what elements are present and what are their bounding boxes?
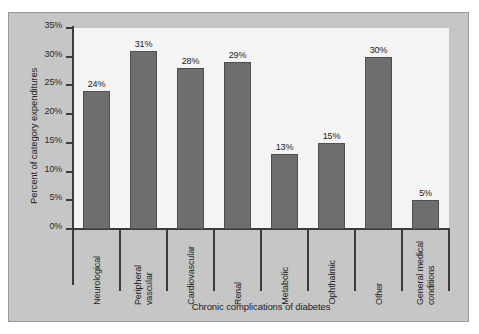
y-axis-tick-label: 15% [45, 135, 62, 145]
x-axis-category: General medical conditions [402, 233, 449, 305]
y-axis-tick: 30% [66, 56, 73, 58]
x-axis-category-label: General medical conditions [415, 241, 437, 305]
chart-panel: 0%5%10%15%20%25%30%35% 24%31%28%29%13%15… [8, 12, 469, 322]
y-axis-tick-label: 5% [49, 192, 62, 202]
bar: 24% [83, 91, 110, 229]
bar-value-label: 31% [135, 39, 152, 49]
y-axis-tick-label: 10% [45, 164, 62, 174]
y-axis-spine [72, 26, 74, 243]
y-axis-tick-label: 30% [45, 49, 62, 59]
bar: 15% [318, 143, 345, 229]
x-axis-title: Chronic complications of diabetes [73, 301, 449, 312]
y-axis-tick: 10% [66, 171, 73, 173]
x-axis-category-label: Neurological [91, 256, 102, 305]
y-axis-tick: 20% [66, 113, 73, 115]
y-axis-tick: 15% [66, 142, 73, 144]
x-axis-category-label: Metabolic [279, 267, 290, 305]
x-axis-category: Peripheral vascular [120, 233, 167, 305]
x-axis-category: Renal [214, 233, 261, 305]
y-axis-title: Percent of category expenditures [26, 41, 40, 231]
y-axis-tick: 25% [66, 84, 73, 86]
y-axis-tick: 5% [66, 199, 73, 201]
bar: 29% [224, 62, 251, 229]
y-axis-tick-label: 0% [49, 221, 62, 231]
x-axis-category: Neurological [73, 233, 120, 305]
y-axis-tick: 35% [66, 27, 73, 29]
y-axis-tick-label: 35% [45, 20, 62, 30]
bar: 30% [365, 57, 392, 229]
bar-value-label: 29% [229, 50, 246, 60]
figure: 0%5%10%15%20%25%30%35% 24%31%28%29%13%15… [0, 0, 479, 334]
x-axis-category: Cardiovascular [167, 233, 214, 305]
x-axis-category-label: Cardiovascular [185, 246, 196, 305]
x-axis-category: Other [355, 233, 402, 305]
y-axis-tick-label: 20% [45, 106, 62, 116]
bar-value-label: 30% [370, 45, 387, 55]
bar-value-label: 5% [419, 188, 432, 198]
x-axis-category: Ophthalmic [308, 233, 355, 305]
x-axis-category: Metabolic [261, 233, 308, 305]
bar-value-label: 13% [276, 142, 293, 152]
bar-value-label: 24% [88, 79, 105, 89]
x-axis-category-label: Peripheral vascular [133, 265, 155, 305]
y-axis-tick-label: 25% [45, 77, 62, 87]
bar: 13% [271, 154, 298, 229]
bar: 31% [130, 51, 157, 229]
bar: 28% [177, 68, 204, 229]
bar-value-label: 28% [182, 56, 199, 66]
bar: 5% [412, 200, 439, 229]
x-axis-category-label: Ophthalmic [326, 260, 337, 305]
bar-value-label: 15% [323, 131, 340, 141]
